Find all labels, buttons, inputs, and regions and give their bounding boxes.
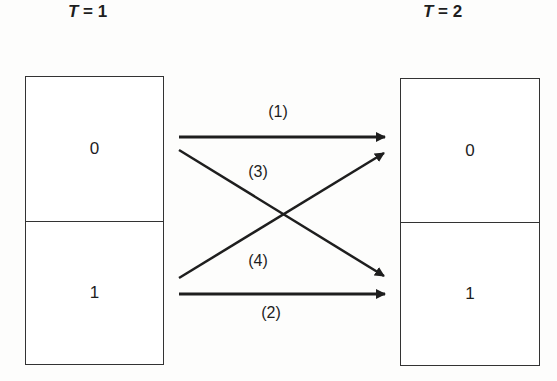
transition-label-4: (4) — [248, 252, 268, 270]
transition-label-2: (2) — [261, 304, 281, 322]
arrow-3 — [179, 150, 384, 276]
arrow-4 — [179, 153, 384, 278]
transition-arrows — [0, 0, 557, 381]
transition-label-1: (1) — [268, 103, 288, 121]
transition-label-3: (3) — [248, 163, 268, 181]
